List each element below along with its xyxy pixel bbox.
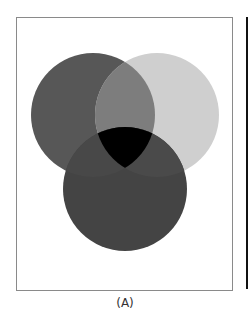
venn-diagram xyxy=(0,0,248,317)
figure-caption: (A) xyxy=(0,296,248,310)
